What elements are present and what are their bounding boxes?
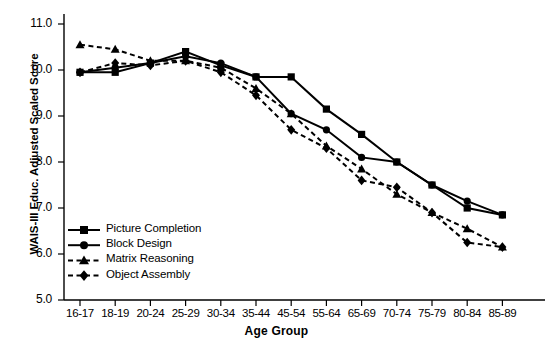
- data-point-circle: [80, 241, 88, 249]
- data-point-triangle: [111, 45, 120, 53]
- data-point-circle: [323, 126, 330, 133]
- data-point-circle: [464, 198, 471, 205]
- y-tick-label: 7.0: [12, 200, 52, 214]
- legend-item-label: Matrix Reasoning: [106, 252, 194, 264]
- data-point-square: [464, 204, 471, 211]
- legend-item-label: Block Design: [106, 237, 172, 249]
- data-point-diamond: [393, 182, 401, 192]
- y-tick-label: 6.0: [12, 246, 52, 260]
- y-tick-label: 10.0: [12, 62, 52, 76]
- x-tick-marks: [80, 300, 502, 306]
- data-point-square: [323, 106, 330, 113]
- y-tick-label: 9.0: [12, 108, 52, 122]
- data-point-square: [358, 131, 365, 138]
- data-point-circle: [358, 154, 365, 161]
- data-series-group: [76, 40, 507, 252]
- y-tick-label: 5.0: [12, 292, 52, 306]
- y-tick-label: 8.0: [12, 154, 52, 168]
- data-point-diamond: [80, 270, 89, 281]
- chart-figure: WAIS-III Educ. Adjusted Scaled Score Age…: [0, 0, 553, 346]
- data-point-circle: [393, 158, 400, 165]
- data-point-circle: [499, 211, 506, 218]
- legend-item-label: Picture Completion: [106, 222, 201, 234]
- data-point-diamond: [322, 143, 330, 153]
- data-point-circle: [252, 73, 259, 80]
- y-tick-label: 11.0: [12, 16, 52, 30]
- legend-symbols: [68, 226, 100, 281]
- data-point-triangle: [357, 164, 366, 172]
- data-point-circle: [428, 181, 435, 188]
- data-point-square: [80, 226, 88, 234]
- y-tick-marks: [58, 24, 64, 300]
- data-point-square: [288, 73, 295, 80]
- series-line: [80, 61, 502, 247]
- x-tick-label: 85-89: [478, 307, 526, 319]
- legend-item-label: Object Assembly: [106, 268, 190, 280]
- plot-area: [0, 0, 553, 346]
